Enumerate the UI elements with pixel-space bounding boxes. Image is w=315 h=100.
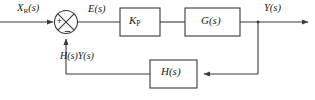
summing-plus-sign: +	[55, 17, 64, 26]
diagram-canvas	[0, 0, 315, 100]
error-signal-label: E(s)	[88, 4, 106, 15]
feedback-signal-label: H(s)Y(s)	[60, 51, 94, 61]
summing-minus-sign: −	[63, 26, 72, 37]
feedback-block-label: H(s)	[161, 66, 181, 77]
block-diagram: XR(s) E(s) Y(s) KP G(s) H(s) H(s)Y(s) + …	[0, 0, 315, 100]
reference-input-label: XR(s)	[17, 3, 39, 15]
plant-block-label: G(s)	[201, 15, 221, 26]
output-signal-label: Y(s)	[264, 3, 281, 14]
gain-block-label: KP	[129, 15, 141, 28]
